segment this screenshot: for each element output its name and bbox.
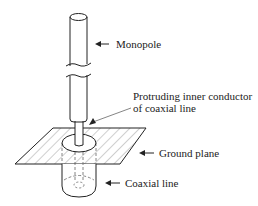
protruding-inner-conductor-label-line2: of coaxial line (133, 102, 196, 114)
protruding-inner-conductor-label: Protruding inner conductor (133, 90, 252, 102)
coaxial-line-label: Coaxial line (125, 177, 178, 189)
monopole-arrow (95, 41, 109, 47)
monopole (66, 14, 91, 123)
ground-plane-label: Ground plane (159, 147, 219, 159)
diagram-canvas (0, 0, 258, 206)
protruding-arrow (89, 108, 131, 125)
monopole-label: Monopole (116, 38, 161, 50)
inner-conductor (75, 121, 83, 146)
coaxial-line-arrow (105, 180, 120, 186)
ground-plane-arrow (139, 150, 154, 156)
